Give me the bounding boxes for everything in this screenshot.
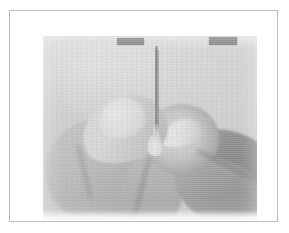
screenshot-root: Grayscale photograph of a hand holding a… bbox=[0, 0, 289, 233]
image-frame: Grayscale photograph of a hand holding a… bbox=[9, 10, 278, 222]
photograph: Grayscale photograph of a hand holding a… bbox=[43, 36, 257, 220]
photo-bottom-fade bbox=[43, 210, 257, 220]
halftone-texture bbox=[43, 36, 257, 220]
